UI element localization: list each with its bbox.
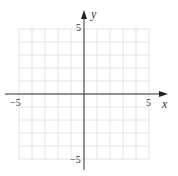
- y-axis-label: y: [90, 7, 97, 21]
- x-tick-label-min: −5: [10, 97, 21, 108]
- y-tick-label-min: −5: [70, 154, 81, 165]
- y-axis-arrow-icon: [81, 10, 87, 19]
- x-tick-label-max: 5: [146, 97, 151, 108]
- coordinate-plane: y x −5 5 5 −5: [0, 0, 178, 176]
- x-axis-label: x: [161, 97, 168, 111]
- y-tick-label-max: 5: [76, 22, 81, 33]
